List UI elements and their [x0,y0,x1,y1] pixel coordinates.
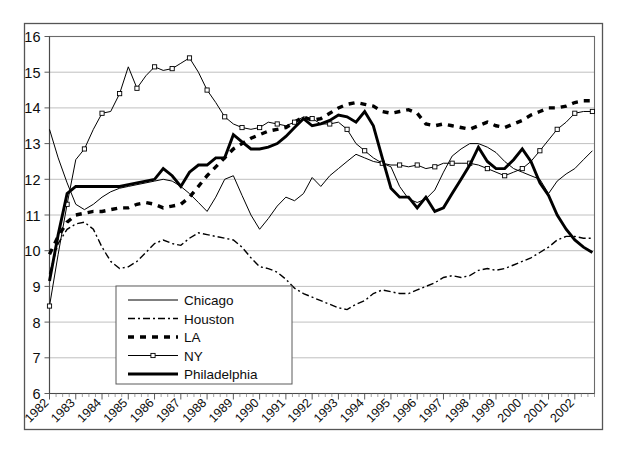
data-point-marker [170,67,174,71]
y-tick-label-13: 13 [24,136,40,152]
y-tick-label-7: 7 [32,350,40,366]
data-point-marker [100,111,104,115]
data-point-marker [152,65,156,69]
data-point-marker [450,161,454,165]
y-tick-label-14: 14 [24,100,40,116]
y-tick-label-9: 9 [32,279,40,295]
y-tick-label-8: 8 [32,315,40,331]
y-tick-label-10: 10 [24,243,40,259]
data-point-marker [118,92,122,96]
data-point-marker [47,304,51,308]
chart-container: 678910111213141516 198219831984198519861… [0,0,622,458]
data-point-marker [555,127,559,131]
y-tick-label-12: 12 [24,172,40,188]
data-point-marker [205,88,209,92]
data-point-marker [538,149,542,153]
chart-legend[interactable]: ChicagoHoustonLANYPhiladelphia [116,286,292,384]
data-point-marker [275,122,279,126]
data-point-marker [590,109,594,113]
data-point-marker [520,166,524,170]
legend-label-la: LA [184,330,201,345]
data-point-marker [187,56,191,60]
legend-label-philadelphia: Philadelphia [184,367,258,382]
y-tick-label-11: 11 [25,208,40,224]
data-point-marker [223,115,227,119]
data-point-marker [345,127,349,131]
y-tick-label-15: 15 [24,65,40,81]
data-point-marker [310,117,314,121]
legend-marker [151,353,155,357]
data-point-marker [258,125,262,129]
data-point-marker [433,165,437,169]
data-point-marker [415,163,419,167]
legend-label-houston: Houston [184,312,234,327]
data-point-marker [398,163,402,167]
data-point-marker [292,120,296,124]
legend-label-chicago: Chicago [184,293,234,308]
data-point-marker [503,174,507,178]
line-chart: 678910111213141516 198219831984198519861… [0,0,622,458]
y-tick-label-16: 16 [24,29,40,45]
data-point-marker [485,166,489,170]
legend-label-ny: NY [184,349,203,364]
data-point-marker [573,111,577,115]
data-point-marker [82,147,86,151]
data-point-marker [363,149,367,153]
data-point-marker [135,86,139,90]
data-point-marker [240,125,244,129]
